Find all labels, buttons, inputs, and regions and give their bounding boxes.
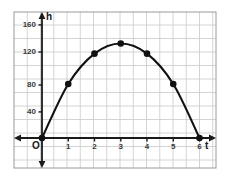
- y-tick-label-160: 160: [14, 21, 36, 29]
- data-point: [117, 40, 124, 47]
- data-point: [170, 81, 177, 88]
- y-tick-label-120: 120: [14, 48, 36, 56]
- x-tick-label-1: 1: [60, 143, 76, 151]
- y-tick-label-80: 80: [14, 81, 36, 89]
- graph-screenshot: 160 120 80 40 1 2 3 4 5 6 h t O: [0, 0, 228, 176]
- y-axis-name-label: h: [46, 12, 52, 22]
- x-tick-label-4: 4: [139, 143, 155, 151]
- x-tick-label-2: 2: [87, 143, 103, 151]
- data-point: [65, 81, 72, 88]
- data-point: [91, 50, 98, 57]
- y-tick-label-40: 40: [14, 108, 36, 116]
- origin-label: O: [32, 141, 40, 151]
- data-point: [144, 50, 151, 57]
- x-tick-label-5: 5: [165, 143, 181, 151]
- x-axis-name-label: t: [205, 141, 208, 151]
- data-point: [196, 135, 203, 142]
- x-tick-label-3: 3: [113, 143, 129, 151]
